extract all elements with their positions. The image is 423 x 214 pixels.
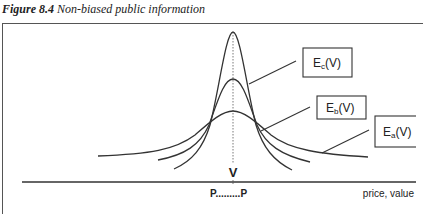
svg-text:Ec(V): Ec(V): [313, 56, 341, 71]
svg-text:Eb(V): Eb(V): [326, 101, 354, 116]
leader-ea: [322, 130, 369, 153]
curve-eb: [158, 79, 310, 162]
value-label: V: [229, 165, 238, 180]
legend-ec: Ec(V): [303, 48, 352, 77]
legend-ea: Ea(V): [375, 116, 416, 147]
price-range-label: P.........P: [210, 188, 247, 199]
legend-eb: Eb(V): [317, 96, 366, 119]
leader-ec: [249, 61, 296, 84]
leader-eb: [261, 107, 310, 131]
x-axis-label: price, value: [363, 188, 415, 199]
svg-text:Ea(V): Ea(V): [383, 125, 411, 140]
